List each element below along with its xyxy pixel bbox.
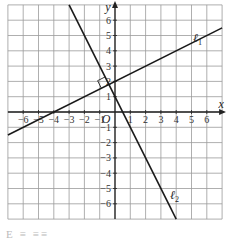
x-tick-label: −2 <box>79 114 90 125</box>
y-tick-label: −2 <box>100 137 111 148</box>
line-2-label: ℓ2 <box>170 188 179 204</box>
x-tick-label: −4 <box>48 114 59 125</box>
x-tick-label: 5 <box>189 114 194 125</box>
y-axis-label: y <box>104 0 111 14</box>
x-tick-label: 3 <box>158 114 163 125</box>
origin-label: O <box>102 112 111 126</box>
x-tick-label: 2 <box>143 114 148 125</box>
y-tick-label: −4 <box>100 168 111 179</box>
x-axis-label: x <box>217 97 224 111</box>
y-tick-label: 6 <box>106 15 111 26</box>
coordinate-graph: −6−5−4−3−2−1123456−6−5−4−3−2−1123456Oxy … <box>0 0 226 246</box>
x-tick-label: 6 <box>204 114 209 125</box>
y-tick-label: −3 <box>100 152 111 163</box>
x-tick-label: −3 <box>64 114 75 125</box>
caption: E ≡ ≡≡ <box>6 228 49 240</box>
y-tick-label: −5 <box>100 183 111 194</box>
y-axis-arrow-icon <box>112 1 118 8</box>
line-1-label: ℓ1 <box>193 31 202 47</box>
x-tick-label: 4 <box>174 114 179 125</box>
y-tick-label: 4 <box>106 45 111 56</box>
y-tick-label: −6 <box>100 198 111 209</box>
y-tick-label: 3 <box>106 61 111 72</box>
y-tick-label: 1 <box>106 91 111 102</box>
x-tick-label: −6 <box>18 114 29 125</box>
y-tick-label: 5 <box>106 30 111 41</box>
